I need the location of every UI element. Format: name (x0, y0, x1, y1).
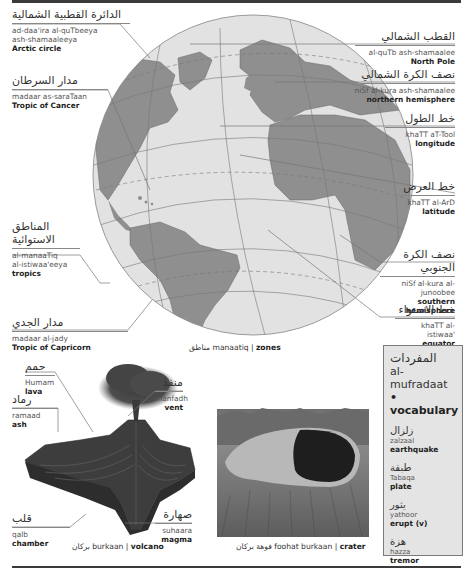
label-vent: منفذ manfadh vent (155, 376, 183, 412)
vocab-english: tremor (390, 556, 456, 565)
label-arctic-circle: الدائرة القطبية الشمالية ad-daa'ira al-q… (12, 8, 130, 53)
chamber-english: chamber (12, 539, 70, 548)
ash-english: ash (12, 420, 58, 429)
label-north-pole: القطب الشمالي al-quTb ash-shamaalee Nort… (355, 30, 455, 66)
north-pole-translit: al-quTb ash-shamaalee (355, 48, 455, 57)
label-tropic-of-capricorn: مدار الجدي madaar al-jady Tropic of Capr… (12, 316, 128, 352)
tropics-translit-1: al-manaaTiq (12, 251, 80, 260)
magma-translit: suhaara (155, 526, 192, 535)
vocab-translit: hazza (390, 548, 456, 556)
vocabulary-box: المفردات al-mufradaat • vocabulary زلزال… (383, 345, 463, 556)
crater-caption: فوهة بركان foohat burkaan | crater (236, 542, 366, 551)
vent-translit: manfadh (155, 394, 183, 403)
label-tropics: المناطق الاستوائية al-manaaTiq al-istiwa… (12, 220, 80, 278)
tropics-english: tropics (12, 269, 80, 278)
southern-hemisphere-arabic: نصف الكرة الجنوبي (380, 248, 455, 277)
vocab-translit: Tabaqa (390, 474, 456, 482)
vocab-arabic: طبقة (390, 462, 456, 474)
tropics-translit-2: al-istiwaa'eeya (12, 260, 80, 269)
arctic-circle-translit-1: ad-daa'ira al-quTbeeya (12, 26, 130, 35)
ash-translit: ramaad (12, 411, 58, 420)
magma-arabic: صهارة (155, 508, 192, 524)
vocabulary-item: زلزال zalzaal earthquake (390, 425, 456, 454)
southern-hemisphere-translit: niSf al-kura al-junoobee (380, 279, 455, 297)
north-pole-arabic: القطب الشمالي (355, 30, 455, 46)
globe-caption-arabic: مناطق (189, 343, 210, 352)
volcano-caption-english: volcano (131, 542, 164, 551)
volcano-caption-arabic: بركان (72, 542, 90, 551)
label-lava: حمم Humam lava (25, 360, 55, 396)
label-ash: رماد ramaad ash (12, 393, 58, 429)
globe-caption: مناطق manaatiq | zones (189, 343, 281, 352)
northern-hemisphere-english: northern hemisphere (345, 95, 455, 104)
northern-hemisphere-arabic: نصف الكرة الشمالي (345, 68, 455, 84)
vocab-english: earthquake (390, 445, 456, 454)
tropics-arabic-1: المناطق (12, 220, 80, 233)
label-magma: صهارة suhaara magma (155, 508, 192, 544)
tropic-of-cancer-translit: madaar as-saraTaan (12, 92, 108, 101)
vocabulary-item: هزة hazza tremor (390, 536, 456, 565)
vent-arabic: منفذ (155, 376, 183, 392)
crater-caption-english: crater (340, 542, 366, 551)
arctic-circle-english: Arctic circle (12, 44, 130, 53)
crater-photo (217, 408, 369, 537)
longitude-english: longitude (385, 139, 455, 148)
longitude-arabic: خط الطول (385, 112, 455, 128)
tropic-of-capricorn-arabic: مدار الجدي (12, 316, 128, 332)
label-latitude: خط العرض khaTT al-ArD latitude (395, 180, 455, 216)
arctic-circle-arabic: الدائرة القطبية الشمالية (12, 8, 130, 24)
chamber-arabic: قلب (12, 512, 70, 528)
tropic-of-capricorn-translit: madaar al-jady (12, 334, 128, 343)
vocab-arabic: يثور (390, 499, 456, 511)
vocab-translit: yathoor (390, 511, 456, 519)
lava-translit: Humam (25, 378, 55, 387)
crater-caption-arabic: فوهة بركان (236, 542, 272, 551)
vocabulary-heading-translit: al-mufradaat (390, 365, 456, 391)
longitude-translit: khaTT aT-Tool (385, 130, 455, 139)
globe-caption-translit: manaatiq (212, 343, 248, 352)
globe-caption-english: zones (256, 343, 281, 352)
chamber-translit: qalb (12, 530, 70, 539)
tropics-arabic-2: الاستوائية (12, 233, 80, 249)
tropic-of-capricorn-english: Tropic of Capricorn (12, 343, 128, 352)
vocab-english: plate (390, 482, 456, 491)
latitude-arabic: خط العرض (395, 180, 455, 196)
crater-caption-translit: foohat burkaan (274, 542, 332, 551)
vocabulary-item: طبقة Tabaqa plate (390, 462, 456, 491)
label-chamber: قلب qalb chamber (12, 512, 70, 548)
north-pole-english: North Pole (355, 57, 455, 66)
vocabulary-item: يثور yathoor erupt (v) (390, 499, 456, 528)
vocab-arabic: هزة (390, 536, 456, 548)
lava-arabic: حمم (25, 360, 55, 376)
label-tropic-of-cancer: مدار السرطان madaar as-saraTaan Tropic o… (12, 74, 108, 110)
volcano-caption: بركان burkaan | volcano (72, 542, 164, 551)
label-equator: خط الاستواء khaTT al-istiwaa' equator (395, 303, 455, 348)
label-longitude: خط الطول khaTT aT-Tool longitude (385, 112, 455, 148)
vocab-english: erupt (v) (390, 519, 456, 528)
tropic-of-cancer-english: Tropic of Cancer (12, 101, 108, 110)
latitude-english: latitude (395, 207, 455, 216)
vocab-arabic: زلزال (390, 425, 456, 437)
vocabulary-heading-english: • vocabulary (390, 391, 456, 417)
tropic-of-cancer-arabic: مدار السرطان (12, 74, 108, 90)
northern-hemisphere-translit: niSf al-kura ash-shamaalee (345, 86, 455, 95)
label-northern-hemisphere: نصف الكرة الشمالي niSf al-kura ash-shama… (345, 68, 455, 104)
equator-translit: khaTT al-istiwaa' (395, 321, 455, 339)
vocabulary-heading-arabic: المفردات (390, 351, 456, 365)
latitude-translit: khaTT al-ArD (395, 198, 455, 207)
volcano-caption-translit: burkaan (92, 542, 123, 551)
arctic-circle-translit-2: ash-shamaaleeya (12, 35, 130, 44)
equator-arabic: خط الاستواء (395, 303, 455, 319)
vent-english: vent (155, 403, 183, 412)
bottom-rule (12, 566, 461, 568)
vocab-translit: zalzaal (390, 437, 456, 445)
ash-arabic: رماد (12, 393, 58, 409)
